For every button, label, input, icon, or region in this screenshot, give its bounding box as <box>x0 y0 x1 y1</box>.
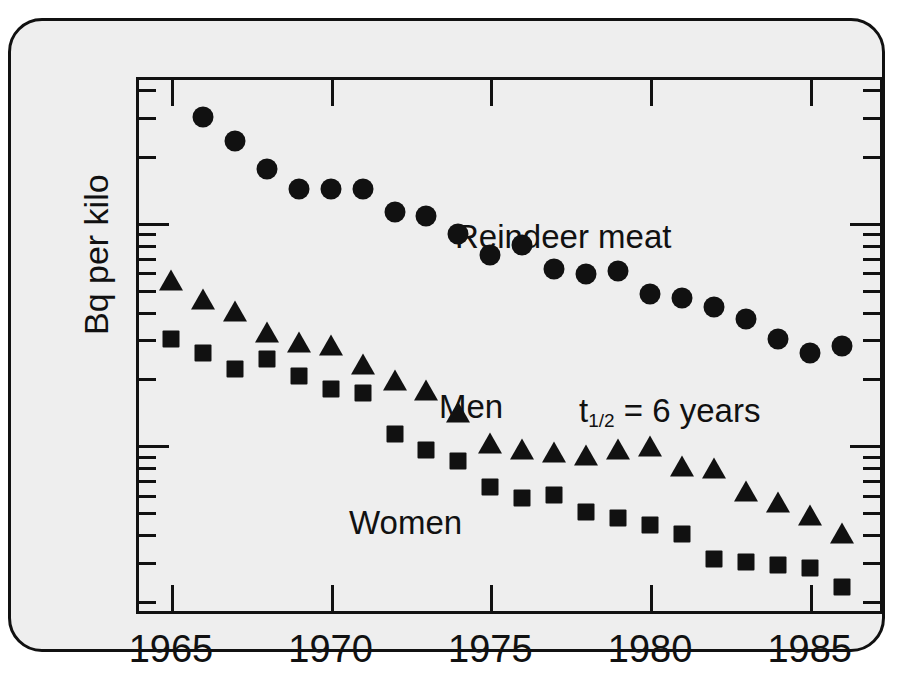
data-point-men <box>191 289 215 310</box>
y-minor-tick <box>139 456 156 459</box>
data-point-men <box>574 444 598 465</box>
data-point-men <box>830 522 854 543</box>
data-point-men <box>319 334 343 355</box>
y-minor-tick <box>139 562 156 565</box>
data-point-reindeer-meat <box>224 130 245 151</box>
x-axis-tick-label: 1965 <box>129 628 214 671</box>
data-point-women <box>418 442 435 459</box>
data-point-women <box>737 553 754 570</box>
y-minor-tick-right <box>863 512 880 515</box>
y-minor-tick-right <box>863 245 880 248</box>
y-minor-tick-right <box>863 495 880 498</box>
y-minor-tick-right <box>863 117 880 120</box>
x-major-tick-top <box>331 80 334 106</box>
x-axis-tick-label: 1980 <box>608 628 693 671</box>
y-minor-tick <box>139 480 156 483</box>
data-point-men <box>510 439 534 460</box>
data-point-women <box>322 380 339 397</box>
data-point-men <box>478 432 502 453</box>
data-point-reindeer-meat <box>735 309 756 330</box>
x-major-tick <box>490 585 493 611</box>
x-axis-tick-label: 1985 <box>767 628 852 671</box>
y-minor-tick <box>139 117 156 120</box>
data-point-women <box>354 385 371 402</box>
x-major-tick-top <box>490 80 493 106</box>
y-major-tick-right <box>850 223 880 226</box>
y-minor-tick-right <box>863 601 880 604</box>
y-major-tick <box>139 223 169 226</box>
data-point-men <box>287 331 311 352</box>
halflife-value: = 6 years <box>615 392 761 429</box>
y-minor-tick-right <box>863 156 880 159</box>
data-point-women <box>673 525 690 542</box>
y-minor-tick <box>139 245 156 248</box>
y-minor-tick <box>139 495 156 498</box>
data-point-men <box>702 458 726 479</box>
data-point-women <box>386 426 403 443</box>
data-point-women <box>642 516 659 533</box>
chart-page: 100100019651970197519801985 Bq per kilo … <box>0 0 897 686</box>
data-point-reindeer-meat <box>416 205 437 226</box>
y-minor-tick <box>139 290 156 293</box>
data-point-women <box>705 550 722 567</box>
data-point-reindeer-meat <box>799 343 820 364</box>
y-minor-tick-right <box>863 233 880 236</box>
y-minor-tick <box>139 512 156 515</box>
data-point-reindeer-meat <box>256 159 277 180</box>
x-axis-tick-label: 1975 <box>448 628 533 671</box>
x-major-tick <box>331 585 334 611</box>
y-minor-tick-right <box>863 89 880 92</box>
plot-frame: 100100019651970197519801985 Bq per kilo … <box>136 77 883 614</box>
data-point-men <box>542 442 566 463</box>
data-point-men <box>255 322 279 343</box>
data-point-reindeer-meat <box>608 260 629 281</box>
y-minor-tick <box>139 378 156 381</box>
data-point-men <box>798 505 822 526</box>
data-point-women <box>226 361 243 378</box>
y-minor-tick <box>139 534 156 537</box>
data-point-reindeer-meat <box>703 296 724 317</box>
data-point-women <box>578 504 595 521</box>
data-point-women <box>482 479 499 496</box>
figure-panel: 100100019651970197519801985 Bq per kilo … <box>8 18 885 652</box>
data-point-men <box>414 380 438 401</box>
x-major-tick-top <box>650 80 653 106</box>
y-minor-tick <box>139 601 156 604</box>
data-point-reindeer-meat <box>320 179 341 200</box>
data-point-reindeer-meat <box>767 329 788 350</box>
x-major-tick-top <box>810 80 813 106</box>
data-point-women <box>194 345 211 362</box>
x-major-tick-top <box>171 80 174 106</box>
y-minor-tick-right <box>863 290 880 293</box>
y-minor-tick <box>139 233 156 236</box>
data-point-reindeer-meat <box>831 335 852 356</box>
annotation-halflife: t1/2 = 6 years <box>579 392 760 430</box>
annotation-men: Men <box>439 388 503 426</box>
data-point-reindeer-meat <box>640 283 661 304</box>
y-major-tick-right <box>850 445 880 448</box>
halflife-subscript: 1/2 <box>588 410 614 431</box>
y-axis-title: Bq per kilo <box>77 174 116 335</box>
data-point-reindeer-meat <box>352 179 373 200</box>
data-point-men <box>638 436 662 457</box>
data-point-men <box>223 300 247 321</box>
data-point-reindeer-meat <box>576 264 597 285</box>
annotation-reindeer-meat: Reindeer meat <box>455 218 671 256</box>
y-minor-tick-right <box>863 467 880 470</box>
y-minor-tick <box>139 272 156 275</box>
plot-area: 100100019651970197519801985 <box>139 80 880 611</box>
y-major-tick <box>139 445 169 448</box>
x-axis-tick-label: 1970 <box>288 628 373 671</box>
y-minor-tick-right <box>863 534 880 537</box>
data-point-women <box>610 510 627 527</box>
data-point-reindeer-meat <box>192 106 213 127</box>
y-minor-tick <box>139 258 156 261</box>
y-minor-tick-right <box>863 339 880 342</box>
y-minor-tick-right <box>863 456 880 459</box>
data-point-men <box>383 369 407 390</box>
data-point-reindeer-meat <box>384 202 405 223</box>
x-major-tick <box>650 585 653 611</box>
data-point-women <box>769 556 786 573</box>
y-minor-tick <box>139 312 156 315</box>
data-point-men <box>670 455 694 476</box>
